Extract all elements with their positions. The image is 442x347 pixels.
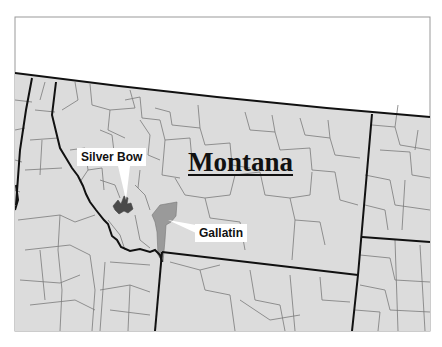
map-title: Montana <box>188 147 293 177</box>
label-silver-bow: Silver Bow <box>77 148 146 166</box>
label-gallatin: Gallatin <box>195 224 247 242</box>
